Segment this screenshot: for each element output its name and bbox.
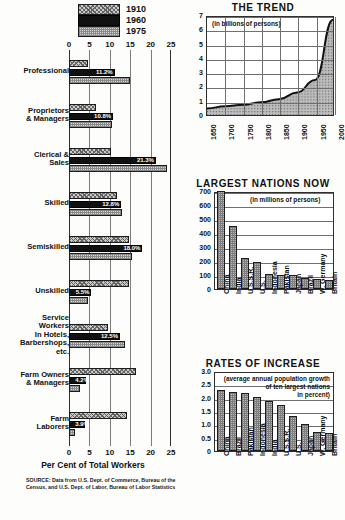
occupations-category-label: ServiceWorkersIn Hotels,Barbershops,etc. bbox=[20, 314, 69, 356]
occupations-value-label: 10.8% bbox=[69, 113, 113, 120]
occupations-value-label: 12.8% bbox=[69, 201, 121, 208]
the-trend-gridline bbox=[335, 17, 336, 115]
largest-nations-y-tick: 100 bbox=[188, 272, 211, 279]
occupations-x-tick: 20 bbox=[145, 448, 157, 457]
largest-nations-y-tick: 400 bbox=[188, 230, 211, 237]
largest-nations-x-tick: Pakistan bbox=[283, 265, 290, 294]
rates-of-increase-x-tick: Indonesia bbox=[259, 423, 266, 456]
occupations-bar-1910 bbox=[69, 324, 108, 331]
occupations-bar-1910 bbox=[69, 280, 129, 287]
largest-nations-gridline bbox=[215, 207, 333, 208]
legend-label-1960: 1960 bbox=[126, 15, 146, 26]
the-trend-x-tick: 1800 bbox=[265, 124, 272, 140]
occupations-value-label: 3.9% bbox=[69, 421, 91, 428]
occupations-x-tick: 5 bbox=[83, 448, 95, 457]
largest-nations-y-tick: 300 bbox=[188, 244, 211, 251]
the-trend-title: THE TREND bbox=[188, 2, 338, 13]
occupations-bar-1975 bbox=[69, 341, 125, 348]
occupations-x-axis-label: Per Cent of Total Workers bbox=[0, 460, 186, 470]
occupations-bar-1910 bbox=[69, 104, 96, 111]
largest-nations-gridline bbox=[215, 193, 333, 194]
occupations-bar-1910 bbox=[69, 368, 136, 375]
largest-nations-x-tick: U.S.S.R. bbox=[247, 267, 254, 294]
the-trend-x-tick: 1750 bbox=[247, 124, 254, 140]
occupations-category-label: Unskilled bbox=[35, 287, 69, 295]
largest-nations-x-tick: Indonesia bbox=[271, 261, 278, 294]
occupations-category-label: FarmLaborers bbox=[37, 415, 70, 432]
rates-of-increase-x-tick: Japan bbox=[307, 436, 314, 456]
the-trend-x-tick: 1950 bbox=[320, 124, 327, 140]
source-note: SOURCE: Data from U.S. Dept. of Commerce… bbox=[26, 477, 186, 492]
rates-of-increase-x-tick: Britain bbox=[331, 434, 338, 456]
occupations-value-label: 21.3% bbox=[69, 157, 156, 164]
rates-of-increase-y-tick: 2.5 bbox=[188, 381, 211, 388]
the-trend-gridline bbox=[317, 17, 318, 115]
largest-nations-subtitle: (in millions of persons) bbox=[250, 196, 320, 204]
largest-nations-y-tick: 500 bbox=[188, 216, 211, 223]
largest-nations-gridline bbox=[215, 221, 333, 222]
occupations-bar-1975 bbox=[69, 385, 80, 392]
rates-of-increase-subtitle: (average annual population growthof ten … bbox=[218, 375, 330, 399]
occupations-bar-1975 bbox=[69, 121, 112, 128]
rates-of-increase-x-tick: U.S.S.R. bbox=[283, 429, 290, 456]
rates-of-increase-y-tick: 1.5 bbox=[188, 408, 211, 415]
largest-nations-y-tick: 200 bbox=[188, 258, 211, 265]
rates-of-increase-x-tick: China bbox=[223, 437, 230, 456]
the-trend-gridline bbox=[244, 17, 245, 115]
largest-nations-y-tick: 0 bbox=[188, 286, 211, 293]
occupations-value-label: 18.0% bbox=[69, 245, 142, 252]
occupations-category-label: Farm Owners& Managers bbox=[20, 371, 69, 388]
occupations-bar-1975 bbox=[69, 165, 167, 172]
occupations-value-label: 4.2% bbox=[69, 377, 91, 384]
the-trend-x-tick: 2000 bbox=[338, 124, 345, 140]
occupations-category-label: Semiskilled bbox=[27, 243, 69, 251]
largest-nations-x-tick: W. Germany bbox=[319, 254, 326, 294]
legend-swatch-1960 bbox=[78, 15, 120, 26]
rates-of-increase-y-tick: 2.0 bbox=[188, 395, 211, 402]
rates-of-increase-panel: RATES OF INCREASE (average annual popula… bbox=[188, 358, 338, 518]
largest-nations-panel: LARGEST NATIONS NOW (in millions of pers… bbox=[188, 178, 338, 348]
rates-of-increase-x-tick: U.S. bbox=[295, 442, 302, 456]
occupations-bar-1910 bbox=[69, 60, 88, 67]
the-trend-gridline bbox=[280, 17, 281, 115]
the-trend-y-tick: 6 bbox=[188, 26, 203, 33]
occupations-value-label: 5.5% bbox=[69, 289, 91, 296]
the-trend-plot-area bbox=[206, 16, 334, 116]
the-trend-x-tick: 1650 bbox=[210, 124, 217, 140]
occupations-x-tick: 15 bbox=[124, 448, 136, 457]
the-trend-y-tick: 0 bbox=[188, 112, 203, 119]
occupations-x-tick: 20 bbox=[145, 40, 157, 49]
legend-swatch-1975 bbox=[78, 26, 120, 37]
the-trend-y-tick: 2 bbox=[188, 83, 203, 90]
rates-of-increase-y-tick: 1.0 bbox=[188, 421, 211, 428]
the-trend-x-tick: 1850 bbox=[283, 124, 290, 140]
the-trend-panel: THE TREND (in billions of persons) 01234… bbox=[188, 2, 338, 140]
the-trend-subtitle: (in billions of persons) bbox=[212, 20, 281, 28]
largest-nations-x-tick: Britain bbox=[331, 272, 338, 294]
occupations-category-label: Skilled bbox=[45, 199, 69, 207]
legend-swatch-1910 bbox=[78, 4, 120, 15]
occupations-value-label: 11.2% bbox=[69, 69, 115, 76]
occupations-bar-chart: 0510152025 0510152025 Per Cent of Total … bbox=[0, 38, 186, 466]
largest-nations-x-tick: China bbox=[223, 275, 230, 294]
occupations-bar-1910 bbox=[69, 148, 111, 155]
the-trend-y-tick: 3 bbox=[188, 69, 203, 76]
rates-of-increase-y-tick: 0 bbox=[188, 448, 211, 455]
the-trend-y-tick: 4 bbox=[188, 55, 203, 62]
largest-nations-y-tick: 600 bbox=[188, 202, 211, 209]
occupations-bar-1975 bbox=[69, 297, 88, 304]
occupations-bar-1975 bbox=[69, 253, 132, 260]
the-trend-y-tick: 1 bbox=[188, 98, 203, 105]
largest-nations-x-tick: India bbox=[235, 278, 242, 294]
occupations-value-label: 12.5% bbox=[69, 333, 120, 340]
occupations-x-tick: 25 bbox=[165, 40, 177, 49]
occupations-bar-1975 bbox=[69, 209, 122, 216]
occupations-gridline bbox=[151, 50, 152, 446]
rates-of-increase-x-tick: India bbox=[271, 440, 278, 456]
occupations-x-tick: 0 bbox=[63, 448, 75, 457]
rates-of-increase-x-tick: Brazil bbox=[235, 437, 242, 456]
occupations-bar-1975 bbox=[69, 429, 75, 436]
occupations-bar-1975 bbox=[69, 77, 130, 84]
rates-of-increase-y-tick: 3.0 bbox=[188, 368, 211, 375]
largest-nations-y-tick: 700 bbox=[188, 188, 211, 195]
